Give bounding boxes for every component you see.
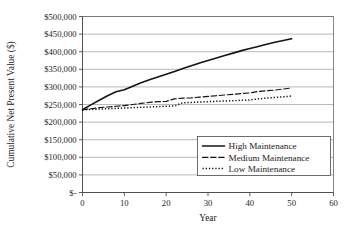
- y-tick-label: $200,000: [44, 117, 76, 127]
- x-tick-label: 50: [287, 198, 296, 208]
- y-tick-label: $300,000: [44, 82, 76, 92]
- y-axis-title-label: Cumulative Net Present Value ($): [6, 41, 17, 167]
- x-tick-label: 10: [120, 198, 129, 208]
- y-axis-ticks-group: $-$50,000$100,000$150,000$200,000$250,00…: [44, 12, 82, 198]
- legend-label: Low Maintenance: [229, 164, 296, 174]
- chart-figure: $-$50,000$100,000$150,000$200,000$250,00…: [0, 0, 357, 238]
- y-tick-label: $-: [69, 188, 76, 198]
- x-axis-title: Year: [199, 213, 217, 223]
- x-axis-title-label: Year: [199, 213, 217, 223]
- x-tick-label: 40: [246, 198, 255, 208]
- chart-canvas: $-$50,000$100,000$150,000$200,000$250,00…: [0, 0, 357, 238]
- x-tick-label: 60: [329, 198, 338, 208]
- x-tick-label: 20: [162, 198, 171, 208]
- y-tick-label: $250,000: [44, 100, 76, 110]
- y-tick-label: $50,000: [49, 170, 77, 180]
- y-tick-label: $100,000: [44, 152, 76, 162]
- series-line-medium-maintenance: [83, 88, 292, 110]
- y-tick-label: $450,000: [44, 29, 76, 39]
- y-tick-label: $350,000: [44, 64, 76, 74]
- x-axis-ticks-group: 0102030405060: [80, 193, 337, 209]
- chart-legend: High MaintenanceMedium MaintenanceLow Ma…: [198, 137, 331, 176]
- legend-label: Medium Maintenance: [229, 153, 310, 163]
- y-axis-title: Cumulative Net Present Value ($): [6, 41, 17, 167]
- series-line-high-maintenance: [83, 39, 292, 110]
- y-tick-label: $150,000: [44, 135, 76, 145]
- legend-label: High Maintenance: [229, 141, 297, 151]
- y-tick-label: $500,000: [44, 12, 76, 22]
- y-tick-label: $400,000: [44, 47, 76, 57]
- x-tick-label: 0: [80, 198, 84, 208]
- data-series-group: [83, 39, 292, 110]
- x-tick-label: 30: [204, 198, 213, 208]
